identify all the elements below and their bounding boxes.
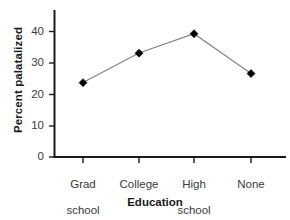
y-tick-label-30: 30 <box>18 56 44 68</box>
y-tick-label-20: 20 <box>18 88 44 100</box>
data-point-none <box>247 70 255 78</box>
y-tick-label-10: 10 <box>18 119 44 131</box>
x-tick-label-none-line1: None <box>216 178 286 191</box>
y-tick-label-40: 40 <box>18 25 44 37</box>
y-axis-title-text: Percent palatalized <box>12 27 24 133</box>
data-series-line <box>83 34 251 83</box>
chart-figure: Percent palatalized 40 30 20 10 0 Grad s… <box>0 0 290 220</box>
x-axis-title: Education <box>10 196 290 208</box>
y-axis-title: Percent palatalized <box>0 0 36 160</box>
y-tick-label-0: 0 <box>18 150 44 162</box>
data-point-grad-school <box>79 79 87 87</box>
data-point-high-school <box>190 30 198 38</box>
data-point-college <box>135 49 143 57</box>
